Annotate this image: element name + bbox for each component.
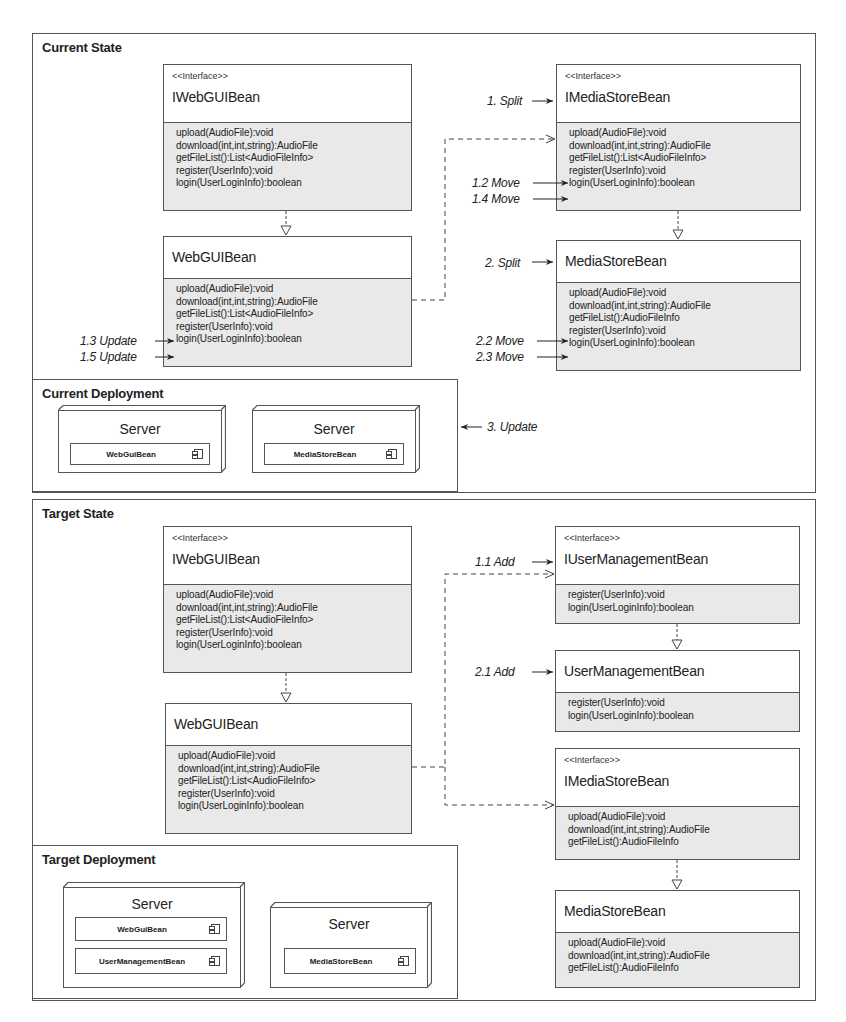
target-deployment-title: Target Deployment bbox=[42, 852, 155, 867]
node-title: Server bbox=[63, 896, 241, 912]
method: download(int,int,string):AudioFile bbox=[176, 140, 411, 153]
method: register(UserInfo):void bbox=[569, 165, 800, 178]
method: getFileList():List<AudioFileInfo> bbox=[569, 152, 800, 165]
method: getFileList():AudioFileInfo bbox=[568, 836, 799, 849]
component: MediaStoreBean bbox=[284, 948, 416, 974]
method: login(UserLoginInfo):boolean bbox=[176, 639, 411, 652]
annotation-split-1: 1. Split bbox=[487, 94, 522, 108]
annotation-update-1-3: 1.3 Update bbox=[80, 334, 137, 348]
method-list: upload(AudioFile):void download(int,int,… bbox=[164, 123, 411, 210]
stereotype-label: <<Interface>> bbox=[564, 755, 620, 765]
method-list: upload(AudioFile):void download(int,int,… bbox=[556, 807, 799, 859]
stereotype-label: <<Interface>> bbox=[172, 71, 228, 81]
deployment-node-server: Server MediaStoreBean bbox=[270, 902, 432, 988]
method: upload(AudioFile):void bbox=[176, 127, 411, 140]
current-state-title: Current State bbox=[42, 40, 122, 55]
component-icon bbox=[400, 956, 409, 966]
current-webguibean-class: WebGUIBean upload(AudioFile):void downlo… bbox=[163, 236, 412, 367]
annotation-update-1-5: 1.5 Update bbox=[80, 350, 137, 364]
method: login(UserLoginInfo):boolean bbox=[178, 800, 411, 813]
annotation-add-2-1: 2.1 Add bbox=[475, 665, 515, 679]
method: getFileList():AudioFileInfo bbox=[568, 962, 799, 975]
method: download(int,int,string):AudioFile bbox=[568, 950, 799, 963]
component-label: WebGuiBean bbox=[71, 450, 191, 459]
component: WebGuiBean bbox=[70, 443, 210, 465]
deployment-node-server: Server WebGuiBean bbox=[58, 405, 226, 473]
class-name: IMediaStoreBean bbox=[564, 773, 669, 789]
annotation-update-3: 3. Update bbox=[487, 420, 537, 434]
method: login(UserLoginInfo):boolean bbox=[176, 177, 411, 190]
method-list: upload(AudioFile):void download(int,int,… bbox=[164, 279, 411, 366]
stereotype-label: <<Interface>> bbox=[172, 533, 228, 543]
deployment-node-server: Server WebGuiBean UserManagementBean bbox=[63, 882, 245, 988]
method: download(int,int,string):AudioFile bbox=[176, 296, 411, 309]
method: getFileList():List<AudioFileInfo> bbox=[178, 775, 411, 788]
class-name: WebGUIBean bbox=[172, 249, 256, 265]
method-list: register(UserInfo):void login(UserLoginI… bbox=[556, 693, 799, 731]
component-label: MediaStoreBean bbox=[265, 450, 385, 459]
method: download(int,int,string):AudioFile bbox=[568, 824, 799, 837]
component-icon bbox=[388, 449, 397, 459]
component: UserManagementBean bbox=[75, 948, 227, 974]
annotation-split-2: 2. Split bbox=[485, 256, 520, 270]
method: upload(AudioFile):void bbox=[178, 750, 411, 763]
component-icon bbox=[211, 924, 220, 934]
component-label: UserManagementBean bbox=[76, 957, 208, 966]
method-list: register(UserInfo):void login(UserLoginI… bbox=[556, 585, 799, 623]
method: register(UserInfo):void bbox=[568, 697, 799, 710]
method: upload(AudioFile):void bbox=[569, 127, 800, 140]
current-mediastorebean-class: MediaStoreBean upload(AudioFile):void do… bbox=[556, 240, 801, 371]
annotation-add-1-1: 1.1 Add bbox=[475, 555, 515, 569]
deployment-node-server: Server MediaStoreBean bbox=[252, 405, 420, 473]
component: MediaStoreBean bbox=[264, 443, 404, 465]
target-imediastorebean-class: <<Interface>> IMediaStoreBean upload(Aud… bbox=[555, 748, 800, 860]
target-usermanagementbean-class: UserManagementBean register(UserInfo):vo… bbox=[555, 650, 800, 732]
class-name: MediaStoreBean bbox=[565, 253, 667, 269]
method: register(UserInfo):void bbox=[568, 589, 799, 602]
method: download(int,int,string):AudioFile bbox=[569, 140, 800, 153]
component-label: MediaStoreBean bbox=[285, 957, 397, 966]
method: getFileList():List<AudioFileInfo> bbox=[176, 152, 411, 165]
class-name: WebGUIBean bbox=[174, 716, 258, 732]
annotation-move-1-4: 1.4 Move bbox=[472, 192, 520, 206]
target-mediastorebean-class: MediaStoreBean upload(AudioFile):void do… bbox=[555, 890, 800, 988]
component-icon bbox=[194, 449, 203, 459]
current-deployment-title: Current Deployment bbox=[42, 386, 163, 401]
method-list: upload(AudioFile):void download(int,int,… bbox=[166, 746, 411, 833]
method: getFileList():AudioFileInfo bbox=[569, 312, 800, 325]
method-list: upload(AudioFile):void download(int,int,… bbox=[556, 933, 799, 987]
method: upload(AudioFile):void bbox=[176, 283, 411, 296]
method: getFileList():List<AudioFileInfo> bbox=[176, 308, 411, 321]
method: login(UserLoginInfo):boolean bbox=[569, 177, 800, 190]
class-name: UserManagementBean bbox=[564, 663, 704, 679]
component: WebGuiBean bbox=[75, 917, 227, 941]
class-name: MediaStoreBean bbox=[564, 903, 666, 919]
method: register(UserInfo):void bbox=[176, 627, 411, 640]
method: login(UserLoginInfo):boolean bbox=[569, 337, 800, 350]
method: login(UserLoginInfo):boolean bbox=[568, 710, 799, 723]
method-list: upload(AudioFile):void download(int,int,… bbox=[164, 585, 411, 672]
method: upload(AudioFile):void bbox=[568, 811, 799, 824]
method: upload(AudioFile):void bbox=[568, 937, 799, 950]
node-title: Server bbox=[252, 421, 416, 437]
component-label: WebGuiBean bbox=[76, 925, 208, 934]
node-title: Server bbox=[58, 421, 222, 437]
target-state-title: Target State bbox=[42, 506, 114, 521]
method: register(UserInfo):void bbox=[178, 788, 411, 801]
node-title: Server bbox=[270, 916, 428, 932]
class-name: IWebGUIBean bbox=[172, 89, 260, 105]
method: register(UserInfo):void bbox=[176, 165, 411, 178]
method: register(UserInfo):void bbox=[176, 321, 411, 334]
component-icon bbox=[211, 956, 220, 966]
annotation-move-2-3: 2.3 Move bbox=[476, 350, 524, 364]
method-list: upload(AudioFile):void download(int,int,… bbox=[557, 123, 800, 210]
annotation-move-1-2: 1.2 Move bbox=[472, 176, 520, 190]
method: login(UserLoginInfo):boolean bbox=[568, 602, 799, 615]
class-name: IUserManagementBean bbox=[564, 551, 708, 567]
target-webguibean-class: WebGUIBean upload(AudioFile):void downlo… bbox=[165, 703, 412, 834]
method: download(int,int,string):AudioFile bbox=[569, 300, 800, 313]
class-name: IMediaStoreBean bbox=[565, 89, 670, 105]
stereotype-label: <<Interface>> bbox=[564, 533, 620, 543]
target-iusermanagementbean-class: <<Interface>> IUserManagementBean regist… bbox=[555, 526, 800, 624]
method-list: upload(AudioFile):void download(int,int,… bbox=[557, 283, 800, 370]
